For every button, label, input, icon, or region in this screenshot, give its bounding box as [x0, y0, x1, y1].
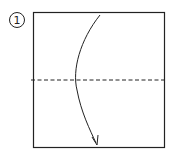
step-number: 1 [14, 14, 21, 27]
origami-diagram: 1 [0, 0, 178, 153]
step-number-badge: 1 [10, 13, 25, 28]
